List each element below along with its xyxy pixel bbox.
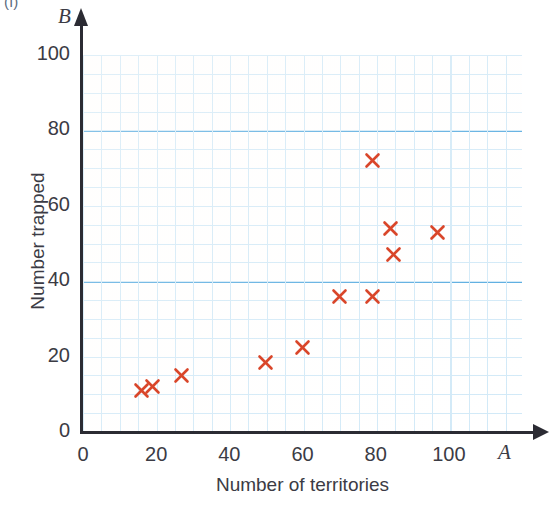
data-point-marker	[364, 152, 381, 169]
data-point-marker	[294, 339, 311, 356]
x-tick-label: 40	[199, 443, 259, 466]
data-point-marker	[331, 288, 348, 305]
part-label: (i)	[4, 0, 19, 10]
data-point-marker	[144, 378, 161, 395]
y-axis-variable-label: B	[58, 4, 71, 29]
x-tick-label: 20	[126, 443, 186, 466]
data-point-marker	[364, 288, 381, 305]
y-tick-label: 20	[8, 344, 70, 367]
y-tick-label: 100	[8, 42, 70, 65]
x-axis-title: Number of territories	[83, 474, 522, 496]
x-tick-label: 60	[273, 443, 333, 466]
x-axis-variable-label: A	[498, 440, 511, 465]
x-tick-label: 100	[419, 443, 479, 466]
x-tick-label: 80	[346, 443, 406, 466]
y-tick-label: 0	[8, 419, 70, 442]
plot-grid-area	[83, 55, 522, 432]
y-axis-arrow-icon	[74, 8, 88, 26]
data-point-marker	[382, 220, 399, 237]
data-point-marker	[385, 246, 402, 263]
x-tick-label: 0	[53, 443, 113, 466]
y-axis-line	[80, 22, 83, 434]
data-point-marker	[173, 367, 190, 384]
paper-tint-overlay	[83, 55, 522, 432]
y-axis-title: Number trapped	[27, 141, 49, 341]
y-tick-label: 80	[8, 117, 70, 140]
x-axis-arrow-icon	[533, 424, 549, 440]
x-axis-line	[80, 431, 535, 434]
data-point-marker	[257, 354, 274, 371]
data-point-marker	[429, 224, 446, 241]
